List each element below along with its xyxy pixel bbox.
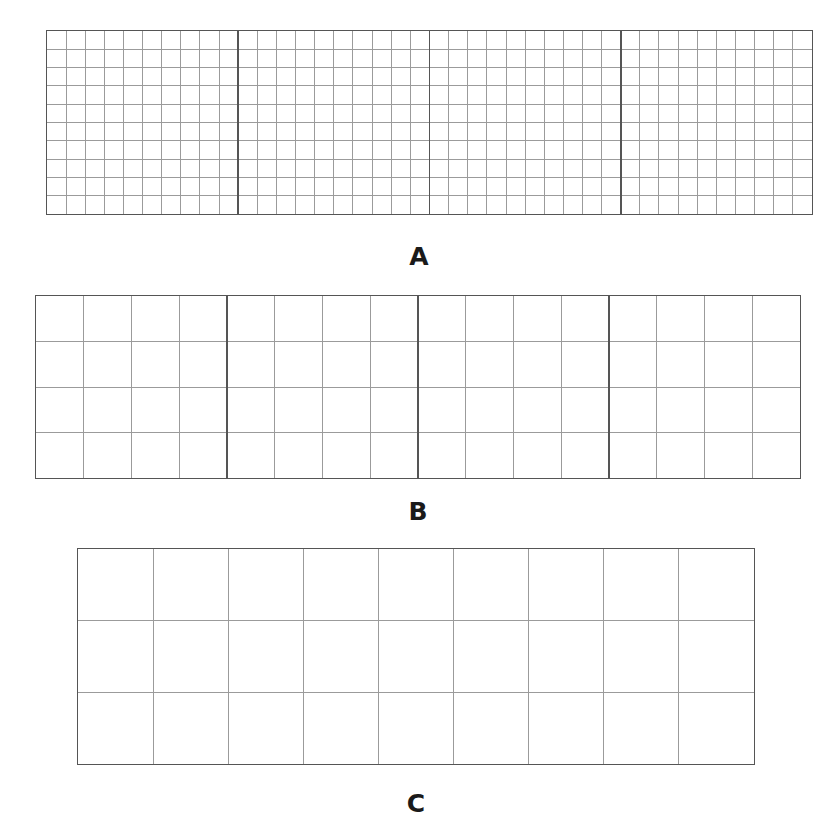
panel-label-b: B (398, 499, 438, 524)
grid-a (46, 30, 813, 215)
grid-b (35, 295, 801, 479)
panel-label-c: C (396, 791, 436, 816)
clipped-caption (0, 829, 827, 836)
grid-b-lines (36, 296, 800, 478)
panel-label-a: A (399, 244, 439, 269)
grid-a-lines (47, 31, 812, 214)
grid-c-lines (78, 549, 754, 764)
grid-c (77, 548, 755, 765)
